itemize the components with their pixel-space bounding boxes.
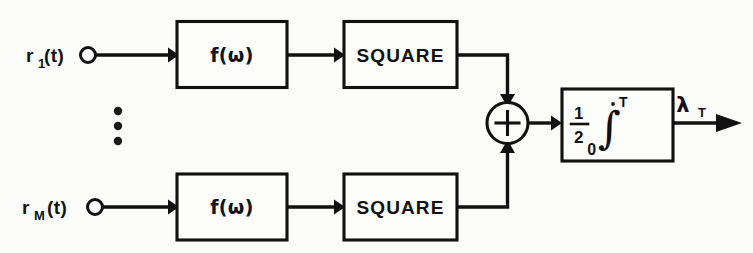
- wire-square-top-to-summer: [457, 55, 508, 95]
- integral-upper-limit: T: [619, 94, 628, 110]
- ellipsis-dot-3: [114, 137, 122, 145]
- input-label-m-tail: (t): [47, 197, 67, 218]
- integral-upper-limit-tick: [611, 102, 615, 106]
- integrator-coefficient-numerator: 1: [574, 104, 584, 123]
- ellipsis-dot-2: [114, 122, 122, 130]
- input-label-m-base: r: [22, 197, 30, 218]
- integral-lower-limit: 0: [587, 141, 596, 158]
- filter-label-top: f(ω): [210, 44, 254, 66]
- input-terminal-m[interactable]: [88, 200, 103, 215]
- filter-label-bottom: f(ω): [210, 196, 254, 218]
- input-terminal-1[interactable]: [81, 48, 96, 63]
- arrowhead-output: [716, 114, 742, 132]
- ellipsis-dot-1: [114, 107, 122, 115]
- integral-sign: ∫: [598, 102, 621, 153]
- output-label-base: λ: [676, 93, 690, 117]
- square-label-bottom: SQUARE: [357, 197, 445, 218]
- wire-square-bottom-to-summer: [457, 152, 508, 207]
- square-label-top: SQUARE: [357, 45, 445, 66]
- input-label-1-base: r: [26, 45, 34, 66]
- diagram-canvas: 1 2 ∫ T 0 r 1 (t) r M (t) f(ω) SQUARE f(…: [0, 0, 753, 253]
- output-label-subscript: T: [698, 105, 706, 120]
- input-label-1-tail: (t): [44, 45, 64, 66]
- block-diagram-figure: 1 2 ∫ T 0 r 1 (t) r M (t) f(ω) SQUARE f(…: [0, 0, 753, 253]
- integrator-coefficient-denominator: 2: [574, 128, 584, 147]
- arrowhead-integrator-input: [551, 116, 562, 131]
- input-label-m-subscript: M: [34, 208, 45, 223]
